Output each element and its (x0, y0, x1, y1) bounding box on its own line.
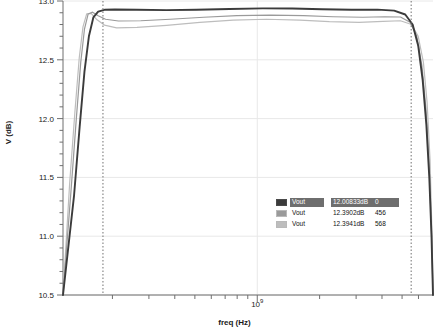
x-tick-exponent: 9 (260, 298, 263, 304)
legend-values: 12.3902dB456 (331, 209, 399, 218)
legend-values: 12.3941dB568 (331, 220, 399, 229)
legend-index: 0 (375, 199, 397, 206)
legend-index: 568 (375, 221, 397, 228)
data-series-line (63, 12, 433, 295)
legend-values: 12.00833dB0 (331, 198, 399, 207)
plot-area (0, 0, 439, 336)
x-tick-base: 10 (251, 300, 260, 309)
data-series-line (63, 13, 433, 295)
x-axis-label-text: freq (Hz) (218, 318, 250, 327)
legend-series-name: Vout (290, 198, 324, 207)
legend-index: 456 (375, 210, 397, 217)
legend-color-swatch (276, 199, 287, 206)
legend-color-swatch (276, 221, 287, 228)
x-axis-label: freq (Hz) (0, 318, 439, 327)
legend-value: 12.3941dB (333, 221, 375, 228)
legend-value: 12.00833dB (333, 199, 375, 206)
legend-row[interactable]: Vout12.3941dB568 (275, 219, 400, 230)
legend-value: 12.3902dB (333, 210, 375, 217)
legend-color-swatch (276, 210, 287, 217)
legend-row[interactable]: Vout12.00833dB0 (275, 197, 400, 208)
x-axis-tick-label: 109 (251, 300, 263, 309)
legend[interactable]: Vout12.00833dB0Vout12.3902dB456Vout12.39… (272, 195, 403, 233)
legend-series-name: Vout (290, 209, 324, 218)
legend-row[interactable]: Vout12.3902dB456 (275, 208, 400, 219)
chart-container: V (dB) 10.511.011.512.012.513.0 109 freq… (0, 0, 439, 336)
legend-series-name: Vout (290, 220, 324, 229)
data-series-line (63, 8, 433, 295)
